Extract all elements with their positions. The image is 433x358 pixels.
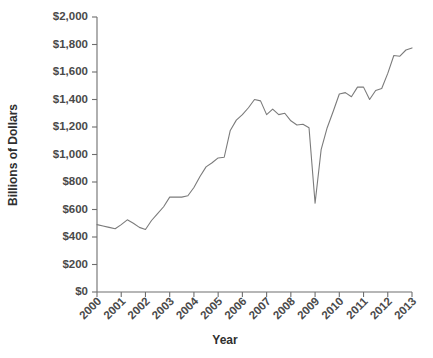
y-axis-tick-label: $0 bbox=[75, 285, 88, 297]
chart-container: $0$200$400$600$800$1,000$1,200$1,400$1,6… bbox=[0, 0, 433, 358]
x-axis-tick-label: 2008 bbox=[271, 295, 298, 322]
x-axis-tick-label: 2001 bbox=[101, 295, 128, 322]
x-axis-tick-label: 2004 bbox=[174, 295, 201, 322]
x-axis-tick-label: 2013 bbox=[392, 295, 419, 322]
y-axis-tick-label: $1,200 bbox=[53, 120, 88, 132]
x-axis-tick-label: 2011 bbox=[344, 295, 371, 322]
x-axis-tick-label: 2010 bbox=[319, 295, 346, 322]
y-axis-tick-label: $800 bbox=[62, 175, 88, 187]
y-axis-tick-label: $1,400 bbox=[53, 93, 88, 105]
y-axis-tick-label: $2,000 bbox=[53, 10, 88, 22]
y-axis-tick-label: $600 bbox=[62, 203, 88, 215]
y-axis-tick-label: $1,000 bbox=[53, 148, 88, 160]
x-axis-tick-label: 2000 bbox=[77, 295, 104, 322]
x-axis-tick-label: 2003 bbox=[150, 295, 177, 322]
line-chart: $0$200$400$600$800$1,000$1,200$1,400$1,6… bbox=[0, 0, 433, 358]
x-axis: 2000200120022003200420052006200720082009… bbox=[77, 292, 419, 322]
y-axis-tick-label: $200 bbox=[62, 258, 88, 270]
y-axis-tick-label: $400 bbox=[62, 230, 88, 242]
x-axis-tick-label: 2002 bbox=[125, 295, 152, 322]
x-axis-title: Year bbox=[212, 333, 238, 347]
y-axis: $0$200$400$600$800$1,000$1,200$1,400$1,6… bbox=[53, 10, 97, 297]
x-axis-tick-label: 2012 bbox=[368, 295, 395, 322]
x-axis-tick-label: 2007 bbox=[246, 295, 273, 322]
y-axis-title: Billions of Dollars bbox=[6, 104, 20, 206]
x-axis-tick-label: 2009 bbox=[295, 295, 322, 322]
y-axis-tick-label: $1,800 bbox=[53, 38, 88, 50]
x-axis-tick-label: 2005 bbox=[198, 295, 225, 322]
x-axis-tick-label: 2006 bbox=[222, 295, 249, 322]
data-line-series bbox=[97, 48, 412, 230]
data-series-group bbox=[97, 48, 412, 230]
y-axis-tick-label: $1,600 bbox=[53, 65, 88, 77]
